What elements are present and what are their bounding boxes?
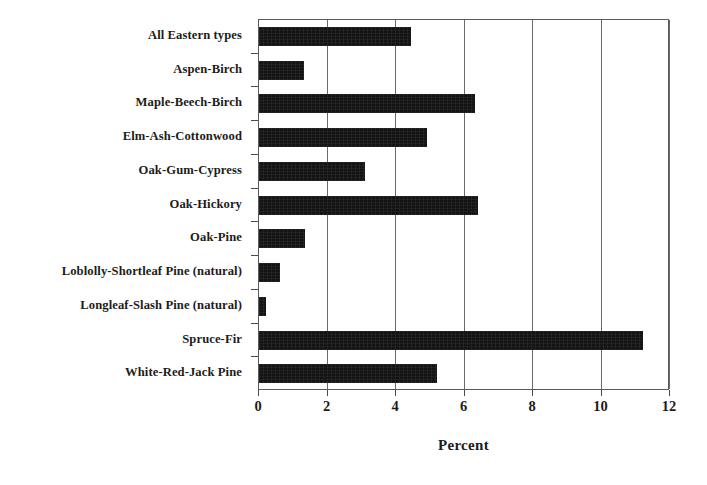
bar — [259, 128, 427, 147]
bar — [259, 364, 437, 383]
category-label: White-Red-Jack Pine — [125, 356, 242, 390]
category-label: Loblolly-Shortleaf Pine (natural) — [62, 255, 242, 289]
bar — [259, 61, 304, 80]
category-label: Oak-Pine — [190, 221, 242, 255]
x-axis-tick — [601, 390, 602, 396]
category-label: All Eastern types — [148, 19, 242, 53]
bar — [259, 331, 643, 350]
y-axis-tick — [251, 221, 258, 222]
y-axis-tick — [251, 255, 258, 256]
x-axis-tick — [395, 390, 396, 396]
x-axis-tick-label: 0 — [238, 398, 278, 415]
y-axis-tick — [251, 120, 258, 121]
x-axis-tick-label: 6 — [444, 398, 484, 415]
bar-row — [259, 54, 668, 88]
x-axis-tick-label: 8 — [512, 398, 552, 415]
y-axis-tick — [251, 86, 258, 87]
x-axis-tick — [532, 390, 533, 396]
y-axis-tick — [251, 289, 258, 290]
category-label: Longleaf-Slash Pine (natural) — [80, 289, 242, 323]
bar — [259, 229, 305, 248]
gridline — [669, 20, 670, 389]
x-axis-title-text: Percent — [218, 437, 489, 453]
bar — [259, 297, 266, 316]
bar — [259, 94, 475, 113]
bar — [259, 196, 478, 215]
plot-area — [258, 19, 669, 390]
x-axis-tick-label: 10 — [581, 398, 621, 415]
bar-row — [259, 357, 668, 391]
category-label: Oak-Gum-Cypress — [139, 154, 242, 188]
y-axis-tick — [251, 188, 258, 189]
category-label: Aspen-Birch — [173, 53, 242, 87]
category-label: Maple-Beech-Birch — [136, 86, 242, 120]
bar-row — [259, 256, 668, 290]
y-axis-tick — [251, 53, 258, 54]
y-axis-tick — [251, 323, 258, 324]
x-axis-tick — [464, 390, 465, 396]
x-axis-tick-label: 4 — [375, 398, 415, 415]
bar — [259, 27, 411, 46]
x-axis-tick — [669, 390, 670, 396]
bar-row — [259, 20, 668, 54]
bar-chart: All Eastern typesAspen-BirchMaple-Beech-… — [0, 0, 707, 485]
x-axis-tick-label: 12 — [649, 398, 689, 415]
bar-row — [259, 87, 668, 121]
x-axis-tick — [258, 390, 259, 396]
bar — [259, 263, 280, 282]
category-label: Elm-Ash-Cottonwood — [123, 120, 242, 154]
bar-row — [259, 121, 668, 155]
y-axis-tick — [251, 154, 258, 155]
bar-row — [259, 189, 668, 223]
bar-row — [259, 222, 668, 256]
bar-row — [259, 324, 668, 358]
bar — [259, 162, 365, 181]
category-axis-labels: All Eastern typesAspen-BirchMaple-Beech-… — [0, 19, 250, 390]
y-axis-tick — [251, 356, 258, 357]
category-label: Spruce-Fir — [182, 323, 242, 357]
category-label: Oak-Hickory — [170, 188, 242, 222]
bar-row — [259, 155, 668, 189]
bar-row — [259, 290, 668, 324]
x-axis-tick — [327, 390, 328, 396]
x-axis-title: Percent — [0, 437, 707, 454]
x-axis-tick-label: 2 — [307, 398, 347, 415]
